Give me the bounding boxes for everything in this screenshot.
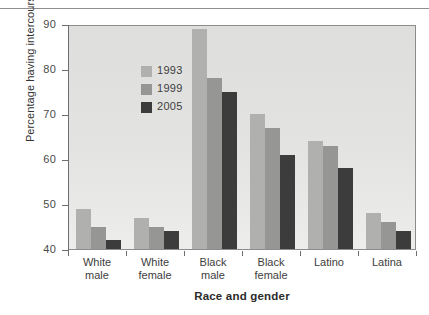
- bar: [338, 168, 353, 249]
- bar: [164, 231, 179, 249]
- bar: [134, 218, 149, 250]
- bar: [149, 227, 164, 250]
- y-axis-line: [68, 25, 69, 251]
- bar-group: [134, 26, 179, 249]
- x-axis-category-label-line1: Black: [258, 256, 285, 268]
- y-axis-tick: [62, 115, 68, 116]
- x-axis-category-label-line1: White: [83, 256, 111, 268]
- y-axis-title: Percentage having intercourse: [24, 0, 36, 156]
- bar: [106, 240, 121, 249]
- x-axis-category-label-line1: Latino: [314, 256, 344, 268]
- x-axis-category-label: Latina: [350, 256, 424, 269]
- top-horizontal-rule: [0, 8, 429, 9]
- bar: [366, 213, 381, 249]
- x-axis-category-label-line1: Black: [200, 256, 227, 268]
- bar: [323, 146, 338, 250]
- bar-chart-figure: 405060708090 Percentage having intercour…: [0, 0, 429, 315]
- y-axis-tick: [62, 205, 68, 206]
- legend-swatch-icon: [141, 66, 152, 77]
- bar-group: [76, 26, 121, 249]
- bar-group: [250, 26, 295, 249]
- bar: [192, 29, 207, 250]
- legend-label: 1999: [157, 82, 183, 94]
- bar: [396, 231, 411, 249]
- y-axis-tick-label: 50: [30, 198, 56, 210]
- legend-label: 1993: [157, 64, 183, 76]
- bar: [207, 78, 222, 249]
- x-axis-category-label-line1: White: [141, 256, 169, 268]
- legend-swatch-icon: [141, 84, 152, 95]
- bar: [265, 128, 280, 250]
- legend-swatch-icon: [141, 102, 152, 113]
- y-axis-tick: [62, 160, 68, 161]
- bar: [76, 209, 91, 250]
- bar: [280, 155, 295, 250]
- bar: [308, 141, 323, 249]
- bar: [381, 222, 396, 249]
- y-axis-tick: [62, 25, 68, 26]
- bar: [222, 92, 237, 250]
- bars-layer: [69, 26, 415, 249]
- bar: [250, 114, 265, 249]
- y-axis-tick: [62, 70, 68, 71]
- bar-group: [192, 26, 237, 249]
- x-axis-title: Race and gender: [68, 290, 416, 302]
- bar-group: [308, 26, 353, 249]
- y-axis-tick-label: 40: [30, 243, 56, 255]
- x-axis-category-label-line1: Latina: [372, 256, 402, 268]
- bar-group: [366, 26, 411, 249]
- legend-label: 2005: [157, 100, 183, 112]
- plot-area: 199319992005: [68, 25, 416, 250]
- x-axis-category-label-line2: female: [234, 269, 308, 282]
- bar: [91, 227, 106, 250]
